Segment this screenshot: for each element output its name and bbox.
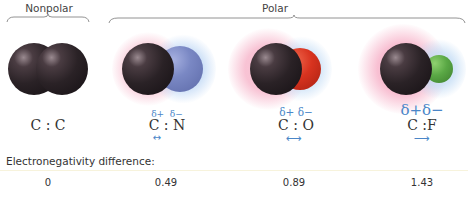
- en-value-co: 0.89: [274, 177, 314, 188]
- dipole-arrow-co: ⟷: [276, 133, 312, 144]
- carbon-atom: [36, 43, 88, 95]
- formula-cc: C : C: [18, 117, 78, 133]
- formula-cf: C :F: [392, 117, 452, 133]
- dipole-arrow-cf: ⟶: [404, 133, 440, 144]
- nonpolar-bracket: [6, 14, 90, 24]
- en-value-cf: 1.43: [402, 177, 442, 188]
- carbon-atom: [122, 43, 174, 95]
- en-value-cc: 0: [28, 177, 68, 188]
- formula-co: C : O: [266, 117, 326, 133]
- nonpolar-label: Nonpolar: [14, 2, 84, 14]
- divider: [0, 170, 468, 171]
- dipole-arrow-cn: ↔: [142, 133, 172, 143]
- formula-cn: C : N: [137, 117, 197, 133]
- carbon-atom: [380, 43, 432, 95]
- en-value-cn: 0.49: [146, 177, 186, 188]
- carbon-atom: [250, 43, 302, 95]
- electronegativity-label: Electronegativity difference:: [6, 155, 155, 167]
- polar-label: Polar: [250, 2, 300, 14]
